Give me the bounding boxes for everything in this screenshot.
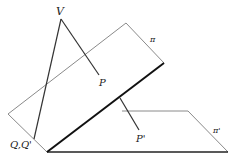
label-p: P <box>98 77 106 88</box>
label-pi: π <box>149 35 156 44</box>
ray-v-to-q <box>34 19 61 139</box>
projection-diagram: V P π Q,Q' P' π' <box>0 0 240 163</box>
ray-to-p-prime <box>120 98 139 130</box>
label-q-q-prime: Q,Q' <box>10 139 32 150</box>
ray-v-to-p <box>61 19 99 75</box>
label-pi-prime: π' <box>212 126 220 135</box>
diagram-svg: V P π Q,Q' P' π' <box>0 0 240 163</box>
label-p-prime: P' <box>135 133 145 144</box>
label-v: V <box>56 5 65 18</box>
